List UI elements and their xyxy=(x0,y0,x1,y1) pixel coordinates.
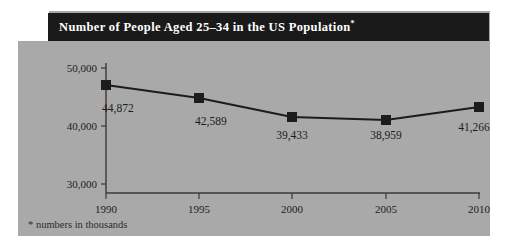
y-tick-label-group: 50,000 40,000 30,000 xyxy=(67,62,98,190)
x-tick-label: 1990 xyxy=(95,203,118,215)
chart-title-bar: Number of People Aged 25–34 in the US Po… xyxy=(48,13,489,41)
data-point-label: 42,589 xyxy=(195,115,227,128)
data-point-label: 41,266 xyxy=(458,121,490,134)
x-tick-label-group: 1990 1995 2000 2005 2010 xyxy=(95,203,490,215)
data-point-label: 38,959 xyxy=(370,129,402,142)
y-tick-label: 40,000 xyxy=(67,120,98,132)
x-tick-label: 2005 xyxy=(375,203,398,215)
data-point-marker[interactable] xyxy=(287,112,297,122)
y-tick-label: 50,000 xyxy=(67,62,98,74)
x-tick-label: 1995 xyxy=(188,203,211,215)
data-point-label: 44,872 xyxy=(102,102,134,115)
plot-area: 50,000 40,000 30,000 1990 1995 2000 2005… xyxy=(18,41,490,236)
chart-title-main: Number of People Aged 25–34 in the US Po… xyxy=(59,20,351,34)
y-tick-label: 30,000 xyxy=(67,178,98,190)
x-tick-label: 2010 xyxy=(468,203,490,215)
data-point-marker[interactable] xyxy=(474,102,484,112)
chart-title: Number of People Aged 25–34 in the US Po… xyxy=(48,19,355,35)
panel-corner-notch xyxy=(18,10,49,41)
x-tick-group xyxy=(106,193,479,199)
data-marker-group xyxy=(101,80,484,125)
chart-footnote: * numbers in thousands xyxy=(28,219,127,230)
data-point-label: 39,433 xyxy=(276,129,308,142)
x-tick-label: 2000 xyxy=(281,203,304,215)
data-point-marker[interactable] xyxy=(101,80,111,90)
line-chart-svg: 50,000 40,000 30,000 1990 1995 2000 2005… xyxy=(18,41,490,236)
data-point-marker[interactable] xyxy=(194,93,204,103)
data-point-marker[interactable] xyxy=(381,115,391,125)
chart-title-superscript: * xyxy=(351,19,355,28)
